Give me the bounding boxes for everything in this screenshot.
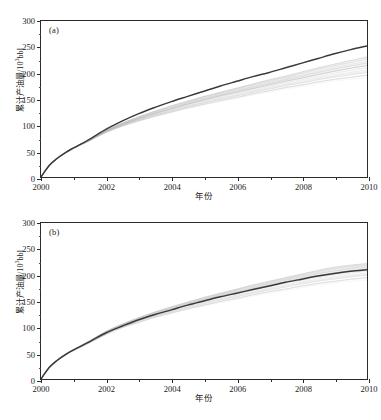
main-curve (41, 46, 367, 177)
ensemble-curve (41, 64, 367, 177)
ensemble-curve (41, 273, 367, 379)
ensemble-curve (41, 274, 367, 379)
x-axis-minor-tick (271, 379, 272, 382)
ensemble-curve (41, 72, 367, 177)
ensemble-curve (41, 278, 367, 379)
x-axis-minor-tick (205, 379, 206, 382)
y-axis-minor-tick (39, 289, 42, 290)
ensemble-curve (41, 265, 367, 379)
y-axis-tick-label: 300 (22, 218, 35, 228)
x-axis-title-b: 年份 (40, 391, 368, 403)
ensemble-curve (41, 271, 367, 379)
ensemble-curve (41, 59, 367, 177)
y-axis-exponent-a: 3 (14, 59, 20, 62)
ensemble-curve (41, 266, 367, 379)
y-axis-tick-label: 50 (27, 350, 36, 360)
x-axis-tick (369, 177, 370, 181)
ensemble-curve (41, 68, 367, 177)
figure-caption (0, 410, 381, 420)
x-axis-minor-tick (139, 379, 140, 382)
x-axis-minor-tick (74, 379, 75, 382)
y-axis-tick-label: 250 (22, 42, 35, 52)
x-axis-minor-tick (271, 177, 272, 180)
x-axis-tick (172, 379, 173, 383)
y-axis-minor-tick (39, 140, 42, 141)
ensemble-curve (41, 58, 367, 177)
ensemble-curve (41, 61, 367, 177)
y-axis-minor-tick (39, 342, 42, 343)
x-axis-minor-tick (336, 177, 337, 180)
y-axis-minor-tick (39, 87, 42, 88)
ensemble-curve (41, 278, 367, 379)
ensemble-curve (41, 77, 367, 177)
ensemble-curve (41, 73, 367, 177)
ensemble-curve (41, 275, 367, 379)
ensemble-curve (41, 59, 367, 177)
y-axis-minor-tick (39, 34, 42, 35)
y-axis-tick-label: 200 (22, 69, 35, 79)
y-axis-minor-tick (39, 368, 42, 369)
x-axis-minor-tick (205, 177, 206, 180)
ensemble-curve (41, 71, 367, 177)
y-axis-tick-label: 300 (22, 16, 35, 26)
ensemble-curve (41, 268, 367, 379)
ensemble-curve (41, 61, 367, 177)
x-axis-tick (238, 379, 239, 383)
y-axis-minor-tick (39, 61, 42, 62)
curve-group-a (41, 21, 367, 177)
ensemble-curve (41, 269, 367, 379)
y-axis-tick-label: 100 (22, 323, 35, 333)
x-axis-title-a: 年份 (40, 189, 368, 201)
x-axis-tick (107, 379, 108, 383)
y-axis-tick (37, 328, 41, 329)
y-axis-tick (37, 47, 41, 48)
ensemble-curve (41, 265, 367, 379)
x-axis-tick (41, 177, 42, 181)
x-axis-minor-tick (139, 177, 140, 180)
y-axis-minor-tick (39, 263, 42, 264)
x-axis-tick (41, 379, 42, 383)
chart-panel-b: 累计产油量/103bbl (b) 05010015020025030020002… (0, 202, 381, 402)
y-axis-tick-label: 250 (22, 244, 35, 254)
ensemble-curve (41, 275, 367, 379)
curve-group-b (41, 223, 367, 379)
y-axis-tick (37, 249, 41, 250)
x-axis-tick (369, 379, 370, 383)
y-axis-tick-label: 150 (22, 297, 35, 307)
chart-panel-a: 累计产油量/103bbl (a) 05010015020025030020002… (0, 0, 381, 200)
y-axis-tick-label: 200 (22, 271, 35, 281)
ensemble-curve (41, 73, 367, 177)
y-axis-tick (37, 126, 41, 127)
y-axis-tick (37, 100, 41, 101)
y-axis-tick (37, 355, 41, 356)
y-axis-minor-tick (39, 315, 42, 316)
main-curve (41, 270, 367, 379)
x-axis-tick (303, 177, 304, 181)
y-axis-tick (37, 276, 41, 277)
x-axis-minor-tick (336, 379, 337, 382)
plot-area-b: (b) 050100150200250300200020022004200620… (40, 222, 368, 380)
y-axis-tick-label: 50 (27, 148, 36, 158)
ensemble-curve (41, 75, 367, 177)
y-axis-tick-label: 150 (22, 95, 35, 105)
ensemble-curve (41, 265, 367, 379)
ensemble-curve (41, 271, 367, 379)
x-axis-minor-tick (74, 177, 75, 180)
x-axis-tick (238, 177, 239, 181)
y-axis-tick (37, 74, 41, 75)
y-axis-minor-tick (39, 166, 42, 167)
ensemble-curve (41, 280, 367, 379)
y-axis-minor-tick (39, 113, 42, 114)
ensemble-curve (41, 273, 367, 379)
y-axis-minor-tick (39, 236, 42, 237)
ensemble-curve (41, 276, 367, 379)
ensemble-curve (41, 72, 367, 177)
y-axis-tick (37, 223, 41, 224)
y-axis-tick (37, 302, 41, 303)
ensemble-curve (41, 275, 367, 379)
ensemble-curve (41, 266, 367, 379)
y-axis-tick (37, 21, 41, 22)
ensemble-curve (41, 59, 367, 177)
y-axis-tick (37, 153, 41, 154)
ensemble-curve (41, 70, 367, 177)
